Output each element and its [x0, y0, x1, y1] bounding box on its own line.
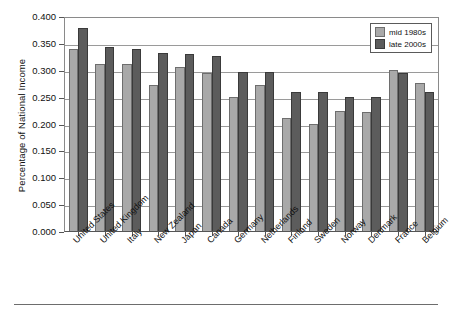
bar-group: [225, 18, 252, 231]
legend-item-mid-1980s: mid 1980s: [375, 27, 426, 37]
bar: [69, 49, 79, 231]
y-axis-tick-label: 0.050: [8, 199, 56, 210]
bar: [335, 111, 345, 231]
y-axis-tick: [59, 151, 64, 152]
legend-swatch-icon-mid-1980s: [375, 27, 385, 37]
bar: [149, 85, 159, 231]
bar-group: [251, 18, 278, 231]
bar: [309, 124, 319, 231]
bar-group: [65, 18, 92, 231]
legend-label-late-2000s: late 2000s: [389, 40, 426, 49]
bar: [78, 28, 88, 231]
y-axis-tick: [59, 205, 64, 206]
bar: [398, 73, 408, 231]
bar: [265, 72, 275, 231]
y-axis-tick-label: 0.300: [8, 65, 56, 76]
bar-group: [305, 18, 332, 231]
plot-area: mid 1980s late 2000s: [64, 17, 439, 232]
bottom-divider: [14, 304, 438, 305]
bar: [158, 53, 168, 231]
bar: [202, 73, 212, 231]
y-axis-tick-label: 0.100: [8, 172, 56, 183]
bar-group: [92, 18, 119, 231]
y-axis-tick: [59, 17, 64, 18]
y-axis-tick: [59, 44, 64, 45]
y-axis-tick: [59, 98, 64, 99]
y-axis-tick-label: 0.200: [8, 119, 56, 130]
y-axis-tick: [59, 71, 64, 72]
y-axis-tick-label: 0.150: [8, 145, 56, 156]
bar: [425, 92, 435, 231]
bar: [318, 92, 328, 231]
legend-item-late-2000s: late 2000s: [375, 39, 426, 49]
y-axis-tick-label: 0.350: [8, 38, 56, 49]
bar: [345, 97, 355, 231]
bar: [415, 83, 425, 231]
bar-group: [331, 18, 358, 231]
y-axis-tick-label: 0.000: [8, 226, 56, 237]
bar: [229, 97, 239, 231]
bar-group: [198, 18, 225, 231]
bar: [212, 56, 222, 231]
bar: [238, 72, 248, 231]
legend: mid 1980s late 2000s: [370, 23, 432, 53]
bar: [389, 70, 399, 231]
bar: [371, 97, 381, 231]
y-axis-tick: [59, 125, 64, 126]
y-axis-tick: [59, 178, 64, 179]
y-axis-tick: [59, 232, 64, 233]
bar: [362, 112, 372, 231]
x-axis-tick-labels: United StatesUnited KingdomItalyNew Zeal…: [64, 234, 439, 296]
bar-group: [172, 18, 199, 231]
bar-chart-figure: Percentage of National Income mid 1980s …: [0, 0, 452, 317]
y-axis-tick-label: 0.250: [8, 92, 56, 103]
bar-group: [278, 18, 305, 231]
y-axis-tick-label: 0.400: [8, 11, 56, 22]
legend-label-mid-1980s: mid 1980s: [389, 28, 426, 37]
legend-swatch-icon-late-2000s: [375, 39, 385, 49]
bar: [255, 85, 265, 231]
